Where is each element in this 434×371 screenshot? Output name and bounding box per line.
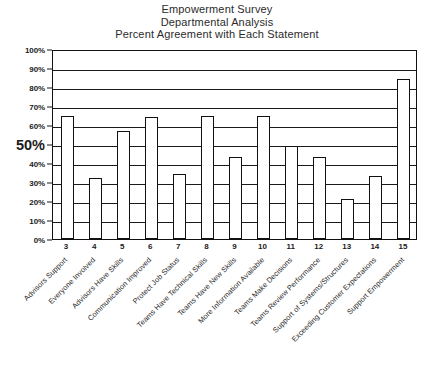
bar bbox=[117, 131, 130, 239]
category-label: Teams Have Technical Skills bbox=[104, 255, 209, 360]
y-axis: 100%90%80%70%60%50%40%30%20%10%0% bbox=[0, 50, 52, 240]
x-tick-label: 12 bbox=[314, 242, 323, 251]
chart-title-line-1: Empowerment Survey bbox=[0, 3, 434, 16]
y-tick-label: 100% bbox=[25, 46, 45, 55]
y-tick-label: 30% bbox=[29, 179, 45, 188]
bar bbox=[145, 117, 158, 239]
category-label: Support Empowerment bbox=[301, 255, 406, 360]
gridline bbox=[53, 127, 416, 128]
x-tick-label: 6 bbox=[148, 242, 152, 251]
category-label: Teams Have New Skills bbox=[132, 255, 237, 360]
x-tick-label: 11 bbox=[286, 242, 294, 251]
gridline bbox=[53, 89, 416, 90]
x-tick-label: 8 bbox=[204, 242, 208, 251]
y-tick-label: 50% bbox=[16, 137, 45, 153]
category-label: Teams Review Performance bbox=[217, 255, 322, 360]
gridline bbox=[53, 146, 416, 147]
category-label: Exceeding Customer Expectations bbox=[273, 255, 378, 360]
bar bbox=[229, 157, 242, 239]
y-tick-label: 40% bbox=[29, 160, 45, 169]
x-tick-label: 10 bbox=[258, 242, 267, 251]
category-label: Support of Systems/Structures bbox=[245, 255, 350, 360]
bar bbox=[173, 174, 186, 239]
bar bbox=[341, 199, 354, 239]
y-tick-label: 90% bbox=[29, 65, 45, 74]
gridline bbox=[53, 108, 416, 109]
category-label: Advisors Have Skills bbox=[20, 255, 125, 360]
bar bbox=[313, 157, 326, 239]
bar bbox=[89, 178, 102, 239]
chart-title-line-3: Percent Agreement with Each Statement bbox=[0, 28, 434, 41]
x-tick-label: 4 bbox=[92, 242, 96, 251]
y-tick-label: 10% bbox=[29, 217, 45, 226]
category-label: More Information Available bbox=[160, 255, 265, 360]
category-label: Teams Make Decisions bbox=[188, 255, 293, 360]
plot-area bbox=[52, 50, 417, 240]
bar bbox=[369, 176, 382, 239]
x-tick-label: 14 bbox=[370, 242, 379, 251]
bar bbox=[257, 116, 270, 240]
bar bbox=[397, 79, 410, 239]
y-tick-label: 60% bbox=[29, 122, 45, 131]
x-tick-label: 15 bbox=[399, 242, 408, 251]
category-axis-labels: Advisors SupportEveryone InvolvedAdvisor… bbox=[0, 252, 434, 371]
y-tick-label: 70% bbox=[29, 103, 45, 112]
x-tick-label: 13 bbox=[342, 242, 351, 251]
category-label: Protect Job Status bbox=[76, 255, 181, 360]
x-tick-label: 9 bbox=[232, 242, 236, 251]
x-tick-label: 7 bbox=[176, 242, 180, 251]
bar bbox=[201, 116, 214, 240]
chart-title: Empowerment Survey Departmental Analysis… bbox=[0, 3, 434, 41]
y-tick-label: 80% bbox=[29, 84, 45, 93]
x-tick-label: 5 bbox=[120, 242, 124, 251]
gridline bbox=[53, 70, 416, 71]
bar bbox=[61, 116, 74, 240]
category-label: Communication Improved bbox=[48, 255, 153, 360]
bar bbox=[285, 146, 298, 239]
y-tick-label: 20% bbox=[29, 198, 45, 207]
chart-title-line-2: Departmental Analysis bbox=[0, 16, 434, 29]
x-tick-label: 3 bbox=[64, 242, 68, 251]
y-tick-label: 0% bbox=[34, 236, 45, 245]
